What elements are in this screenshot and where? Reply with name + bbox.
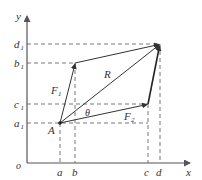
svg-text:1: 1 — [21, 123, 25, 131]
label-f1: F 1 — [50, 84, 62, 98]
y-tick-c1: c 1 — [14, 98, 24, 112]
label-theta: θ — [85, 107, 90, 118]
y-tick-d1: d 1 — [14, 38, 24, 52]
vector-diagram: y x o d 1 b 1 c 1 a 1 a b c d F 1 F 2 R … — [0, 0, 202, 180]
label-point-a: A — [47, 124, 55, 136]
x-tick-a: a — [57, 166, 63, 178]
label-r: R — [103, 68, 111, 80]
svg-text:1: 1 — [21, 104, 25, 112]
origin-label: o — [16, 160, 21, 171]
svg-text:2: 2 — [131, 116, 135, 124]
parallelogram-top-edge — [75, 45, 159, 64]
y-axis-label: y — [15, 10, 21, 22]
svg-text:a: a — [14, 117, 20, 129]
svg-text:b: b — [14, 57, 20, 69]
svg-text:1: 1 — [21, 63, 25, 71]
svg-text:F: F — [50, 84, 58, 96]
y-tick-a1: a 1 — [14, 117, 24, 131]
x-tick-d: d — [156, 166, 162, 178]
svg-text:d: d — [14, 38, 20, 50]
x-tick-c: c — [144, 166, 149, 178]
vector-f1 — [60, 64, 75, 123]
x-tick-b: b — [72, 166, 78, 178]
svg-text:1: 1 — [58, 90, 62, 98]
point-a-dot — [58, 121, 62, 125]
y-tick-b1: b 1 — [14, 57, 24, 71]
svg-text:1: 1 — [21, 44, 25, 52]
svg-text:c: c — [14, 98, 19, 110]
label-f2: F 2 — [123, 110, 135, 124]
svg-text:F: F — [123, 110, 131, 122]
x-axis-label: x — [185, 166, 191, 178]
parallelogram-right-edge — [148, 46, 160, 104]
